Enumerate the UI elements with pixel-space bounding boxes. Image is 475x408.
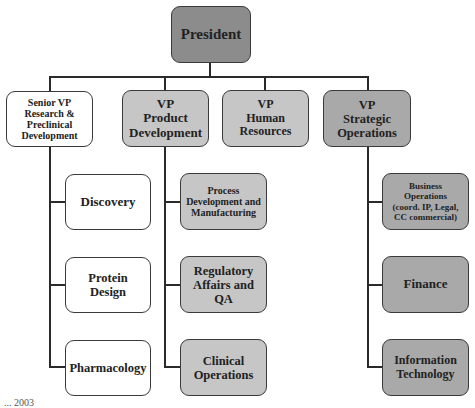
connector-vp-product-drop (164, 76, 166, 91)
node-process-development-label: Process Development and Manufacturing (186, 185, 261, 219)
node-vp-human-resources-label: VP Human Resources (240, 98, 292, 138)
node-vp-product-development-label: VP Product Development (129, 97, 202, 141)
node-svp-research-label: Senior VP Research & Preclinical Develop… (21, 97, 77, 142)
connector-level1-horizontal (49, 76, 369, 78)
node-information-technology-label: Information Technology (394, 354, 457, 381)
node-president-label: President (181, 26, 242, 43)
connector-product-trunk (164, 146, 166, 368)
node-finance: Finance (382, 256, 469, 313)
connector-it (367, 366, 383, 368)
node-process-development: Process Development and Manufacturing (180, 173, 267, 230)
connector-regulatory (164, 284, 180, 286)
node-protein-design-label: Protein Design (69, 271, 147, 299)
node-information-technology: Information Technology (382, 339, 469, 396)
node-president: President (171, 6, 251, 63)
connector-research-trunk (49, 146, 51, 368)
connector-strategic-trunk (367, 146, 369, 368)
connector-finance (367, 284, 383, 286)
node-pharmacology-label: Pharmacology (69, 361, 146, 375)
node-pharmacology: Pharmacology (65, 340, 151, 396)
node-regulatory-affairs: Regulatory Affairs and QA (180, 256, 267, 313)
connector-pharmacology (49, 366, 65, 368)
node-business-operations: Business Operations (coord. IP, Legal, C… (382, 173, 469, 230)
node-protein-design: Protein Design (65, 257, 151, 313)
connector-process-dev (164, 201, 180, 203)
connector-discovery (49, 201, 65, 203)
node-clinical-operations: Clinical Operations (180, 339, 267, 396)
node-regulatory-affairs-label: Regulatory Affairs and QA (193, 264, 254, 306)
connector-business-ops (367, 201, 383, 203)
node-vp-strategic-operations: VP Strategic Operations (323, 90, 411, 147)
node-discovery: Discovery (65, 174, 151, 230)
caption-cropped: ... 2003 (4, 397, 34, 408)
node-clinical-operations-label: Clinical Operations (194, 354, 254, 382)
node-discovery-label: Discovery (81, 195, 136, 210)
node-vp-product-development: VP Product Development (122, 90, 209, 147)
connector-clinical (164, 366, 180, 368)
node-finance-label: Finance (403, 277, 447, 292)
connector-svp-research-drop (49, 76, 51, 91)
node-svp-research: Senior VP Research & Preclinical Develop… (6, 91, 93, 147)
node-business-operations-label: Business Operations (coord. IP, Legal, C… (393, 181, 459, 221)
connector-vp-strategic-drop (367, 76, 369, 91)
connector-protein-design (49, 284, 65, 286)
node-vp-strategic-operations-label: VP Strategic Operations (337, 98, 397, 140)
node-vp-human-resources: VP Human Resources (222, 90, 309, 147)
connector-vp-hr-drop (264, 76, 266, 91)
